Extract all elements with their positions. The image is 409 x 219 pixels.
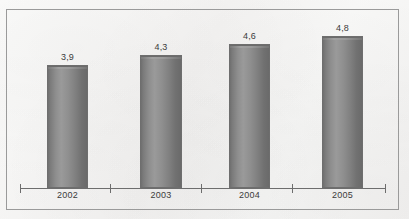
- plot-area: 3,9 2002 4,3 2003 4,6 2004 4,8 2005: [0, 0, 409, 219]
- x-axis-tick: [292, 184, 293, 193]
- bar-2003: [140, 55, 182, 188]
- bar-top-cap: [48, 66, 87, 69]
- bar-chart-image: 3,9 2002 4,3 2003 4,6 2004 4,8 2005: [0, 0, 409, 219]
- bar-top-cap: [230, 45, 269, 48]
- x-axis-tick: [385, 184, 386, 193]
- bar-2004: [229, 44, 270, 188]
- bar-body: [140, 55, 182, 188]
- value-label-2004: 4,6: [229, 31, 270, 41]
- bar-body: [229, 44, 270, 188]
- bar-body: [47, 65, 88, 188]
- x-axis-tick: [110, 184, 111, 193]
- bar-2002: [47, 65, 88, 188]
- bar-top-cap: [323, 37, 362, 40]
- x-axis-tick: [20, 184, 21, 193]
- category-label-2005: 2005: [322, 190, 363, 200]
- category-label-2004: 2004: [229, 190, 270, 200]
- value-label-2003: 4,3: [140, 42, 182, 52]
- category-label-2003: 2003: [140, 190, 182, 200]
- bar-top-cap: [141, 56, 181, 59]
- value-label-2002: 3,9: [47, 52, 88, 62]
- x-axis-line: [20, 188, 386, 189]
- bar-body: [322, 36, 363, 188]
- category-label-2002: 2002: [47, 190, 88, 200]
- bar-2005: [322, 36, 363, 188]
- value-label-2005: 4,8: [322, 23, 363, 33]
- x-axis-tick: [201, 184, 202, 193]
